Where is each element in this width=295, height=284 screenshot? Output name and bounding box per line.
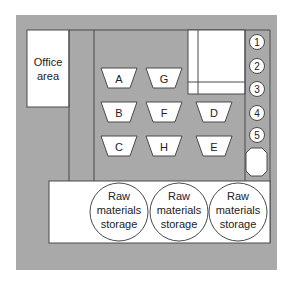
svg-text:materials: materials	[157, 204, 202, 216]
octagon-station[interactable]	[246, 148, 267, 176]
svg-text:4: 4	[254, 108, 260, 119]
svg-text:E: E	[210, 141, 217, 153]
receiving-area	[188, 30, 245, 94]
svg-text:Raw: Raw	[108, 190, 130, 202]
svg-text:storage: storage	[161, 218, 198, 230]
station-1[interactable]: 1	[250, 35, 265, 50]
svg-text:A: A	[115, 73, 123, 85]
svg-text:Raw: Raw	[168, 190, 190, 202]
svg-text:storage: storage	[101, 218, 138, 230]
svg-text:materials: materials	[216, 204, 261, 216]
station-5[interactable]: 5	[250, 128, 265, 143]
office-label-line1: Office	[34, 56, 63, 68]
station-4[interactable]: 4	[250, 106, 265, 121]
svg-text:B: B	[115, 107, 122, 119]
storage-2[interactable]: Raw materials storage	[150, 183, 208, 241]
office-label-line2: area	[37, 70, 60, 82]
svg-text:3: 3	[254, 84, 260, 95]
svg-text:F: F	[161, 107, 168, 119]
svg-text:5: 5	[254, 130, 260, 141]
station-3[interactable]: 3	[250, 82, 265, 97]
station-2[interactable]: 2	[250, 59, 265, 74]
svg-text:2: 2	[254, 61, 260, 72]
svg-text:D: D	[210, 107, 218, 119]
svg-text:storage: storage	[220, 218, 257, 230]
svg-text:C: C	[115, 141, 123, 153]
floor-plan: Office area 1 2 3 4 5 A G	[0, 0, 295, 284]
svg-text:Raw: Raw	[227, 190, 249, 202]
storage-3[interactable]: Raw materials storage	[209, 183, 267, 241]
svg-text:1: 1	[254, 37, 260, 48]
storage-1[interactable]: Raw materials storage	[90, 183, 148, 241]
svg-text:materials: materials	[97, 204, 142, 216]
office-area[interactable]: Office area	[27, 30, 69, 107]
svg-text:G: G	[160, 73, 169, 85]
svg-text:H: H	[160, 141, 168, 153]
